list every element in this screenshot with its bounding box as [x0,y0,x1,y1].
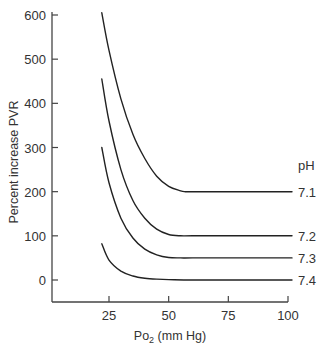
x-tick-label: 100 [277,308,299,323]
series-label-ph-7-2: 7.2 [298,229,316,244]
series-line-ph-7-3 [102,148,292,258]
series-line-ph-7-4 [102,244,292,280]
y-tick-label: 600 [24,8,46,23]
series-group [102,13,292,280]
series-line-ph-7-2 [102,79,292,236]
y-axis-title: Percent increase PVR [7,101,21,224]
x-axis-title-main: Po [134,329,149,343]
y-tick-label: 100 [24,229,46,244]
series-label-ph-7-4: 7.4 [298,273,316,288]
x-tick-label: 25 [102,308,116,323]
y-tick-label: 200 [24,185,46,200]
x-tick-label: 75 [221,308,235,323]
series-line-ph-7-1 [102,13,292,192]
pvr-vs-po2-chart: 0100200300400500600255075100 Percent inc… [0,0,324,348]
legend-title: pH [298,158,315,173]
x-tick-label: 50 [161,308,175,323]
y-tick-label: 0 [39,273,46,288]
series-label-ph-7-1: 7.1 [298,185,316,200]
series-label-ph-7-3: 7.3 [298,251,316,266]
y-tick-label: 500 [24,52,46,67]
x-axis-title-unit: (mm Hg) [154,329,206,343]
y-tick-label: 300 [24,141,46,156]
axes: 0100200300400500600255075100 [24,8,299,323]
x-axis-title: Po2 (mm Hg) [134,329,206,345]
y-tick-label: 400 [24,96,46,111]
chart-canvas: 0100200300400500600255075100 Percent inc… [0,0,324,348]
